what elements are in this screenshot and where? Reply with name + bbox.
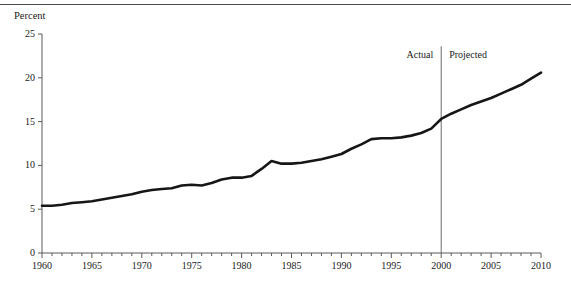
x-axis-tick-label: 2005 xyxy=(471,261,511,271)
y-axis-tick-label: 5 xyxy=(13,204,35,214)
x-axis-tick-label: 2000 xyxy=(421,261,461,271)
x-axis-tick-label: 1975 xyxy=(172,261,212,271)
x-axis-tick-label: 1960 xyxy=(22,261,62,271)
x-axis-tick-label: 1970 xyxy=(122,261,162,271)
region-label-projected: Projected xyxy=(449,49,487,60)
x-axis-tick-label: 1985 xyxy=(272,261,312,271)
region-label-actual: Actual xyxy=(407,49,434,60)
x-axis-tick-label: 2010 xyxy=(521,261,561,271)
x-axis-tick-label: 1995 xyxy=(371,261,411,271)
x-axis-tick-label: 1990 xyxy=(321,261,361,271)
chart-svg xyxy=(0,0,571,287)
y-axis-tick-label: 10 xyxy=(13,160,35,170)
y-axis-tick-label: 0 xyxy=(13,248,35,258)
y-axis-tick-label: 20 xyxy=(13,73,35,83)
x-axis-tick-label: 1980 xyxy=(222,261,262,271)
chart-plot-area: 0510152025196019651970197519801985199019… xyxy=(0,0,571,287)
data-series-line xyxy=(42,73,541,206)
y-axis-tick-label: 25 xyxy=(13,29,35,39)
x-axis-tick-label: 1965 xyxy=(72,261,112,271)
y-axis-tick-label: 15 xyxy=(13,117,35,127)
